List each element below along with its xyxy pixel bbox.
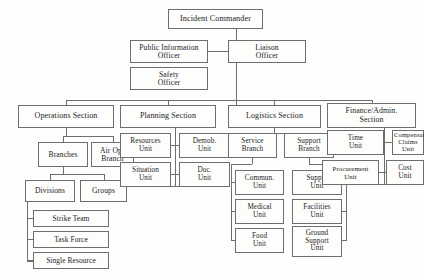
node-label: Single Resource bbox=[35, 257, 107, 265]
connector-fin-foot bbox=[379, 184, 386, 185]
node-label: SafetyOfficer bbox=[132, 71, 206, 87]
connector-plan-res-tie bbox=[171, 145, 179, 146]
node-communications-unit[interactable]: Commun.Unit bbox=[235, 170, 284, 195]
node-label: MedicalUnit bbox=[237, 204, 282, 219]
connector-branches-stem bbox=[63, 167, 64, 174]
connector-fin-rail bbox=[384, 128, 385, 184]
org-chart-canvas: Incident CommanderPublic InformationOffi… bbox=[0, 0, 424, 278]
node-label: Public InformationOfficer bbox=[132, 44, 206, 60]
connector-plan-rail bbox=[175, 128, 176, 186]
node-cost-unit[interactable]: CostUnit bbox=[386, 160, 424, 185]
connector-branches-bar bbox=[50, 174, 104, 175]
node-label: Incident Commander bbox=[170, 15, 261, 24]
node-strike-team[interactable]: Strike Team bbox=[33, 210, 109, 227]
connector-div-rail bbox=[27, 202, 28, 261]
node-label: ProcurementUnit bbox=[324, 165, 377, 179]
node-label: Logistics Section bbox=[230, 112, 319, 120]
node-label: Demob.Unit bbox=[181, 138, 228, 153]
node-branches[interactable]: Branches bbox=[38, 142, 88, 167]
node-doc-unit[interactable]: Doc.Unit bbox=[179, 162, 230, 187]
node-ground-support-unit[interactable]: GroundSupportUnit bbox=[292, 226, 342, 257]
node-time-unit[interactable]: TimeUnit bbox=[327, 130, 384, 155]
connector-sup-ground-tie bbox=[342, 240, 347, 241]
node-finance-admin-section[interactable]: Finance/Admin.Section bbox=[327, 103, 416, 128]
connector-pio-tie bbox=[208, 51, 228, 52]
node-logistics-section[interactable]: Logistics Section bbox=[228, 105, 321, 128]
connector-svc-rail-bar bbox=[231, 164, 252, 165]
node-medical-unit[interactable]: MedicalUnit bbox=[235, 199, 284, 224]
node-incident-commander[interactable]: Incident Commander bbox=[168, 9, 263, 29]
node-liaison-officer[interactable]: LiaisonOfficer bbox=[228, 40, 306, 63]
node-label: FacilitiesUnit bbox=[294, 204, 340, 219]
connector-plan-sit-tie bbox=[171, 174, 179, 175]
node-label: TimeUnit bbox=[329, 135, 382, 150]
connector-plan-foot bbox=[171, 186, 179, 187]
node-label: ResourcesUnit bbox=[122, 138, 169, 153]
node-label: Operations Section bbox=[20, 112, 112, 120]
node-procurement-unit[interactable]: ProcurementUnit bbox=[322, 160, 379, 185]
node-label: GroundSupportUnit bbox=[294, 230, 340, 252]
connector-svc-rail bbox=[231, 164, 232, 241]
node-planning-section[interactable]: Planning Section bbox=[120, 105, 216, 128]
node-situation-unit[interactable]: SituationUnit bbox=[120, 162, 171, 187]
node-food-unit[interactable]: FoodUnit bbox=[235, 228, 284, 253]
node-label: CompensationClaims Unit bbox=[394, 132, 422, 153]
node-label: Planning Section bbox=[122, 112, 214, 120]
connector-ops-stem bbox=[66, 128, 67, 136]
node-label: Finance/Admin.Section bbox=[329, 107, 414, 123]
node-operations-section[interactable]: Operations Section bbox=[18, 105, 114, 128]
node-label: SupportBranch bbox=[286, 138, 332, 153]
node-label: Branches bbox=[40, 151, 86, 159]
node-label: ServiceBranch bbox=[230, 138, 275, 153]
node-demob-unit[interactable]: Demob.Unit bbox=[179, 133, 230, 158]
node-label: SituationUnit bbox=[122, 167, 169, 182]
connector-fin-proc-tie bbox=[379, 172, 386, 173]
node-task-force[interactable]: Task Force bbox=[33, 231, 109, 248]
node-resources-unit[interactable]: ResourcesUnit bbox=[120, 133, 171, 158]
node-safety-officer[interactable]: SafetyOfficer bbox=[130, 67, 208, 90]
node-label: Doc.Unit bbox=[181, 167, 228, 182]
node-single-resource[interactable]: Single Resource bbox=[33, 252, 109, 269]
node-label: LiaisonOfficer bbox=[230, 44, 304, 60]
node-facilities-unit[interactable]: FacilitiesUnit bbox=[292, 199, 342, 224]
node-compensation-claims-unit[interactable]: CompensationClaims Unit bbox=[392, 130, 424, 155]
node-label: CostUnit bbox=[388, 165, 422, 180]
connector-ops-bar bbox=[63, 136, 113, 137]
node-public-information-officer[interactable]: Public InformationOfficer bbox=[130, 40, 208, 63]
node-label: Groups bbox=[82, 187, 125, 195]
connector-section-bus bbox=[66, 100, 372, 101]
node-divisions[interactable]: Divisions bbox=[25, 180, 75, 202]
node-label: Task Force bbox=[35, 236, 107, 244]
node-service-branch[interactable]: ServiceBranch bbox=[228, 133, 277, 158]
connector-svc-rail-stem bbox=[252, 158, 253, 164]
node-label: Commun.Unit bbox=[237, 175, 282, 190]
node-label: Strike Team bbox=[35, 215, 107, 223]
connector-sup-fac-tie bbox=[342, 211, 347, 212]
node-label: Divisions bbox=[27, 187, 73, 195]
node-label: FoodUnit bbox=[237, 233, 282, 248]
